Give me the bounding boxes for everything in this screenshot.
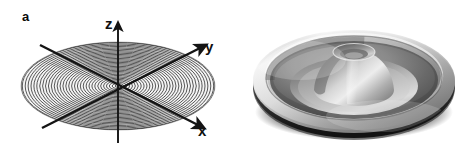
axis-z-label: z xyxy=(105,16,113,31)
panel-b-graphic xyxy=(236,0,472,151)
axis-y-label: y xyxy=(205,39,213,54)
panel-a: a z y x xyxy=(0,0,236,151)
panel-a-label: a xyxy=(22,10,29,23)
axis-x-label: x xyxy=(198,123,206,138)
figure-root: a z y x xyxy=(0,0,472,151)
panel-b: b xyxy=(236,0,472,151)
